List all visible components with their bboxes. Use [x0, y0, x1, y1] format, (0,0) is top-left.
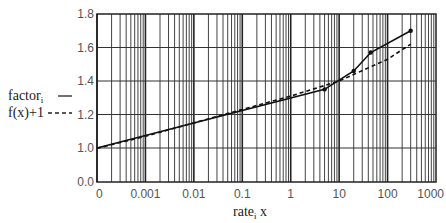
data-point-marker [322, 87, 326, 91]
legend: factori f(x)+1 [8, 88, 72, 121]
data-point-marker [352, 69, 356, 73]
data-series [97, 29, 413, 149]
y-tick-label: 1.0 [77, 141, 94, 155]
x-tick-label: 0 [96, 187, 103, 201]
x-tick-label: 0.01 [182, 187, 206, 201]
x-tick-label: 10 [332, 187, 346, 201]
chart: 0.01.01.21.41.61.8 00.0010.010.111010010… [0, 0, 446, 223]
y-tick-label: 1.6 [77, 41, 94, 55]
x-axis-label: ratei x [233, 204, 267, 221]
series-line-0 [97, 31, 411, 148]
data-point-marker [408, 29, 412, 33]
y-tick-label: 1.4 [77, 74, 94, 88]
legend-label-factor: factori [8, 88, 44, 105]
y-axis-ticks: 0.01.01.21.41.61.8 [77, 7, 94, 189]
x-tick-label: 0.001 [130, 187, 160, 201]
x-tick-label: 1000 [417, 187, 444, 201]
grid-lines [97, 14, 436, 182]
y-tick-label: 1.8 [77, 7, 94, 21]
x-tick-label: 1 [287, 187, 294, 201]
x-tick-label: 100 [378, 187, 398, 201]
y-tick-label: 0.0 [77, 175, 94, 189]
legend-label-fx: f(x)+1 [8, 105, 44, 121]
x-tick-label: 0.1 [234, 187, 251, 201]
x-axis-ticks: 00.0010.010.11101001000 [96, 187, 444, 201]
y-tick-label: 1.2 [77, 108, 94, 122]
data-point-marker [369, 50, 373, 54]
